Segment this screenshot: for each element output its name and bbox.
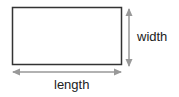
diagram-canvas [0,0,179,97]
width-label: width [137,30,167,43]
length-label: length [54,78,89,91]
rectangle [13,8,122,65]
